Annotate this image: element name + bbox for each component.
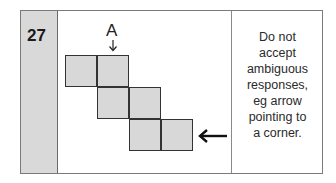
grid-square — [129, 87, 161, 119]
grid-square — [129, 119, 161, 151]
question-number: 27 — [27, 26, 46, 46]
grid-square — [97, 87, 129, 119]
grid-square — [97, 55, 129, 87]
question-number-cell: 27 — [21, 11, 58, 173]
grid-square — [161, 119, 193, 151]
guidance-text: Do not accept ambiguous responses, eg ar… — [232, 29, 323, 141]
down-arrow-icon — [108, 40, 118, 52]
left-arrow-icon — [197, 128, 229, 144]
point-label-a: A — [106, 21, 117, 41]
grid-square — [65, 55, 97, 87]
guidance-cell: Do not accept ambiguous responses, eg ar… — [231, 11, 323, 173]
